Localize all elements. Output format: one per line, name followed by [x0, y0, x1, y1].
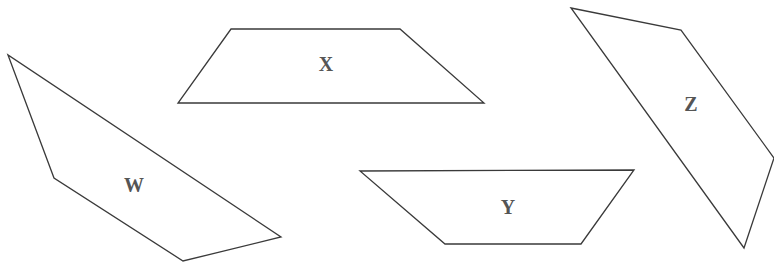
- quadrilateral-y: [360, 170, 634, 244]
- label-y: Y: [501, 196, 516, 218]
- shape-x: X: [178, 29, 484, 103]
- label-x: X: [319, 53, 334, 75]
- quadrilaterals-diagram: W X Y Z: [0, 0, 774, 262]
- label-w: W: [124, 174, 144, 196]
- label-z: Z: [684, 93, 697, 115]
- shape-y: Y: [360, 170, 634, 244]
